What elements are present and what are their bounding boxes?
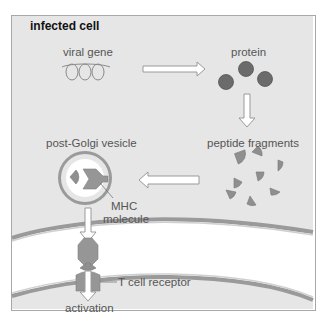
- activation-label: activation: [65, 303, 114, 315]
- mhc-label-line2: molecule: [103, 214, 149, 226]
- peptide-fragments-label: peptide fragments: [207, 138, 299, 150]
- t-cell-receptor-label: T cell receptor: [118, 277, 191, 289]
- protein-label: protein: [231, 47, 266, 59]
- mhc-label-line1: MHC: [111, 201, 137, 213]
- infected-cell-title: infected cell: [30, 20, 99, 32]
- post-golgi-vesicle-label: post-Golgi vesicle: [46, 138, 137, 150]
- infected-cell-body: [12, 16, 313, 238]
- viral-gene-label: viral gene: [63, 47, 113, 59]
